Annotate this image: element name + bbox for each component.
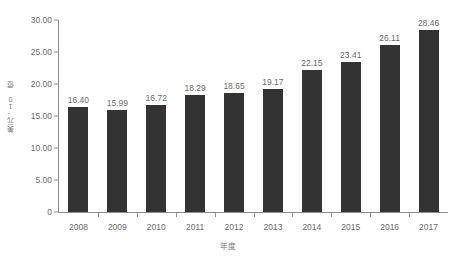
bar-group: 18.65 (215, 20, 254, 212)
y-axis-title-label: 美元：10 億 (6, 80, 16, 133)
y-axis-tick-label: 5.00 (18, 175, 52, 185)
bar-value-label: 15.99 (107, 98, 128, 108)
y-axis-tick-mark (54, 148, 58, 149)
x-axis-title: 年度 (0, 240, 456, 251)
bar[interactable] (302, 70, 322, 212)
bar[interactable] (68, 107, 88, 212)
bar[interactable] (341, 62, 361, 212)
y-axis-tick-label: 15.00 (18, 111, 52, 121)
x-axis-tick-label: 2015 (331, 222, 371, 232)
x-axis-tick-mark (176, 213, 177, 217)
bar-value-label: 18.29 (184, 83, 205, 93)
x-axis-tick-mark (98, 213, 99, 217)
y-axis-tick-mark (54, 212, 58, 213)
bar-group: 19.17 (254, 20, 293, 212)
bar-value-label: 19.17 (262, 77, 283, 87)
x-axis-tick-mark (292, 213, 293, 217)
x-axis-tick-label: 2016 (370, 222, 410, 232)
y-axis-tick-labels: 05.0010.0015.0020.0025.0030.00 (18, 0, 52, 220)
y-axis-tick-label: 25.00 (18, 47, 52, 57)
y-axis-tick-mark (54, 180, 58, 181)
bar-group: 18.29 (176, 20, 215, 212)
bar-group: 26.11 (370, 20, 409, 212)
bar-group: 22.15 (292, 20, 331, 212)
y-axis-tick-mark (54, 20, 58, 21)
x-axis-tick-label: 2010 (136, 222, 176, 232)
bar[interactable] (185, 95, 205, 212)
bar-value-label: 16.72 (146, 93, 167, 103)
bar-value-label: 18.65 (223, 81, 244, 91)
bar-chart: 美元：10 億 05.0010.0015.0020.0025.0030.00 1… (0, 0, 456, 265)
x-axis-tick-label: 2008 (58, 222, 98, 232)
x-axis-title-label: 年度 (220, 242, 236, 251)
bar-value-label: 16.40 (68, 95, 89, 105)
x-axis-tick-label: 2011 (175, 222, 215, 232)
bar-group: 16.72 (137, 20, 176, 212)
x-axis-tick-mark (215, 213, 216, 217)
x-axis-tick-label: 2013 (253, 222, 293, 232)
bar-group: 28.46 (409, 20, 448, 212)
bar-group: 15.99 (98, 20, 137, 212)
plot-area: 16.4015.9916.7218.2918.6519.1722.1523.41… (59, 20, 448, 212)
bar-group: 23.41 (331, 20, 370, 212)
x-axis-tick-label: 2012 (214, 222, 254, 232)
x-axis-tick-mark (254, 213, 255, 217)
x-axis-tick-label: 2017 (409, 222, 449, 232)
bar-value-label: 23.41 (340, 50, 361, 60)
bar-value-label: 22.15 (301, 58, 322, 68)
x-axis-tick-mark (370, 213, 371, 217)
y-axis-tick-mark (54, 52, 58, 53)
bar[interactable] (107, 110, 127, 212)
bar[interactable] (224, 93, 244, 212)
x-axis-tick-mark (409, 213, 410, 217)
bar[interactable] (419, 30, 439, 212)
y-axis-tick-label: 30.00 (18, 15, 52, 25)
bar[interactable] (146, 105, 166, 212)
bar-value-label: 26.11 (379, 33, 400, 43)
x-axis-tick-label: 2014 (292, 222, 332, 232)
bar[interactable] (263, 89, 283, 212)
bar-value-label: 28.46 (418, 18, 439, 28)
y-axis-tick-mark (54, 116, 58, 117)
y-axis-tick-label: 0 (18, 207, 52, 217)
x-axis-tick-label: 2009 (97, 222, 137, 232)
x-axis-tick-mark (137, 213, 138, 217)
bar[interactable] (380, 45, 400, 212)
y-axis-tick-label: 20.00 (18, 79, 52, 89)
x-axis-tick-mark (331, 213, 332, 217)
y-axis-tick-label: 10.00 (18, 143, 52, 153)
y-axis-tick-mark (54, 84, 58, 85)
bar-group: 16.40 (59, 20, 98, 212)
